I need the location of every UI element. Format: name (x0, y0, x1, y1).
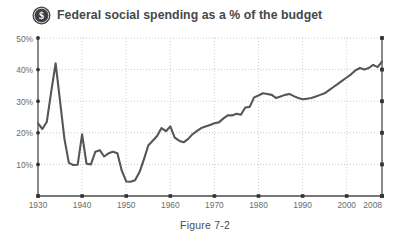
x-tick-label: 1950 (117, 200, 136, 210)
x-tick-label: 1930 (29, 200, 48, 210)
y-tick-label: 10% (16, 160, 33, 170)
x-tick-labels: 1930 1940 1950 1960 1970 1980 1990 2000 … (29, 200, 383, 210)
y-tick-label: 20% (16, 128, 33, 138)
dollar-coin-icon: $ (32, 6, 51, 25)
data-series-line (38, 62, 382, 182)
y-axis (36, 36, 40, 198)
x-tick-label: 1940 (73, 200, 92, 210)
page-title: Federal social spending as a % of the bu… (57, 9, 322, 21)
x-tick-label: 1960 (161, 200, 180, 210)
x-tick-label: 1970 (205, 200, 224, 210)
gridlines-horizontal (38, 38, 382, 164)
y-axis-right (380, 36, 384, 198)
figure-container: $ Federal social spending as a % of the … (0, 0, 410, 245)
y-tick-labels: 50% 40% 30% 20% 10% (16, 34, 33, 170)
figure-header: $ Federal social spending as a % of the … (32, 3, 322, 27)
x-tick-label: 1990 (293, 200, 312, 210)
chart-plot-area: 50% 40% 30% 20% 10% 1930 1940 1950 1960 … (0, 26, 410, 212)
y-tick-label: 50% (16, 34, 33, 44)
x-tick-label: 2000 (337, 200, 356, 210)
y-tick-label: 40% (16, 65, 33, 75)
x-tick-label: 1980 (249, 200, 268, 210)
y-tick-label: 30% (16, 97, 33, 107)
figure-caption: Figure 7-2 (0, 219, 410, 231)
line-chart-svg: 50% 40% 30% 20% 10% 1930 1940 1950 1960 … (0, 26, 410, 212)
x-axis (36, 194, 384, 198)
svg-text:$: $ (39, 10, 44, 21)
x-tick-label: 2008 (363, 200, 382, 210)
